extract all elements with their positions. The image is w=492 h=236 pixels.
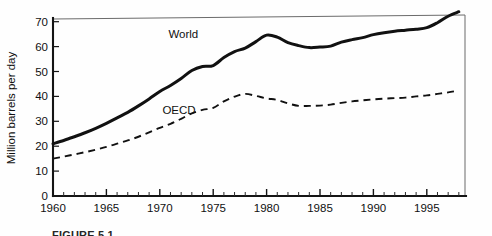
series-label-world: World <box>168 28 198 40</box>
data-series <box>53 12 459 159</box>
x-tick-label: 1960 <box>40 202 66 214</box>
series-labels: World OECD <box>162 28 198 116</box>
y-tick-label: 30 <box>35 115 48 127</box>
x-tick-label: 1980 <box>254 202 280 214</box>
y-tick-label: 40 <box>35 90 48 102</box>
figure-container: 010203040506070 196019651970197519801985… <box>0 0 492 236</box>
y-tick-label: 70 <box>35 16 48 28</box>
y-tick-label: 50 <box>35 66 48 78</box>
series-line-world <box>53 12 459 144</box>
x-tick-label: 1965 <box>94 202 120 214</box>
x-tick-label: 1970 <box>147 202 173 214</box>
y-axis-title: Million barrels per day <box>5 52 17 165</box>
plot-frame <box>53 15 465 196</box>
x-tick-label: 1975 <box>200 202 226 214</box>
y-axis-ticks: 010203040506070 <box>35 16 59 202</box>
series-label-oecd: OECD <box>162 104 195 116</box>
x-tick-label: 1995 <box>414 202 440 214</box>
y-tick-label: 20 <box>35 140 48 152</box>
y-tick-label: 0 <box>42 190 48 202</box>
y-tick-label: 60 <box>35 41 48 53</box>
x-tick-label: 1985 <box>307 202 333 214</box>
figure-caption: FIGURE 5.1 <box>52 229 114 236</box>
series-line-oecd <box>53 90 459 158</box>
line-chart: 010203040506070 196019651970197519801985… <box>0 0 492 236</box>
x-tick-label: 1990 <box>361 202 387 214</box>
x-axis-ticks: 19601965197019751980198519901995 <box>40 189 459 214</box>
y-tick-label: 10 <box>35 165 48 177</box>
axes <box>53 18 466 196</box>
